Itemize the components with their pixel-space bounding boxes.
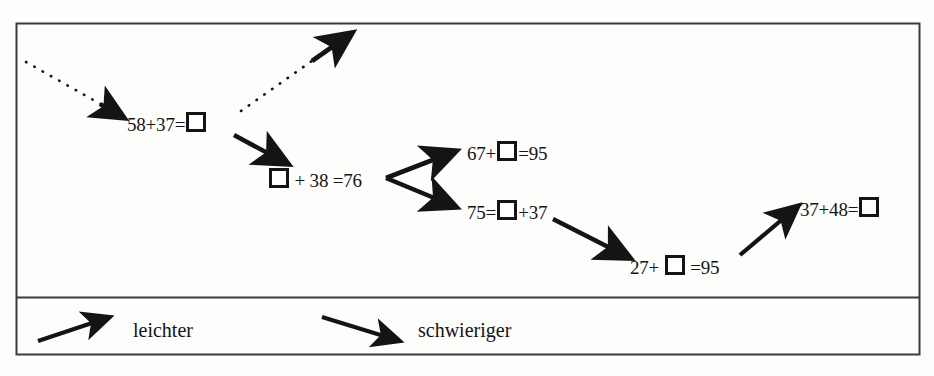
legend-leichter-arrow	[38, 317, 110, 341]
blank-box-icon	[186, 112, 206, 132]
node-75-equals-blank: 75=+37	[467, 200, 547, 222]
node-blank-plus-38: + 38 =76	[268, 168, 362, 190]
node-text-lead: 67+	[467, 143, 496, 164]
node-27-plus-blank: 27+ =95	[630, 255, 719, 277]
node-text-lead: 75=	[467, 202, 496, 223]
arrow-outgoing-dotted-from-n1	[241, 33, 352, 111]
blank-box-icon	[497, 141, 517, 161]
blank-box-icon	[859, 197, 879, 217]
legend-schwieriger-arrow	[322, 317, 400, 341]
node-text: 37+48=	[800, 199, 858, 220]
blank-box-icon	[269, 168, 289, 188]
node-text: 58+37=	[127, 114, 185, 135]
arrow-n1-to-n2	[234, 135, 288, 164]
node-text: + 38 =76	[290, 170, 362, 191]
node-37-plus-48: 37+48=	[800, 197, 880, 219]
legend-schwieriger-label: schwieriger	[418, 320, 511, 340]
node-text-tail: =95	[686, 257, 720, 278]
blank-box-icon	[665, 255, 685, 275]
blank-box-icon	[497, 200, 517, 220]
node-67-plus-blank: 67+=95	[467, 141, 547, 163]
node-text-tail: =95	[518, 143, 547, 164]
arrow-n4-to-n5	[553, 219, 630, 258]
difficulty-network-figure: 58+37= + 38 =76 67+=95 75=+37 27+ =95 37…	[0, 0, 934, 376]
node-text-tail: +37	[518, 202, 547, 223]
node-58-plus-37: 58+37=	[127, 112, 207, 134]
arrow-incoming-dotted-to-n1	[26, 62, 124, 118]
arrow-n2-branch	[386, 151, 456, 207]
outer-frame	[17, 24, 920, 355]
arrow-n5-to-n6	[740, 206, 798, 255]
node-text-lead: 27+	[630, 257, 664, 278]
legend-leichter-label: leichter	[133, 320, 193, 340]
